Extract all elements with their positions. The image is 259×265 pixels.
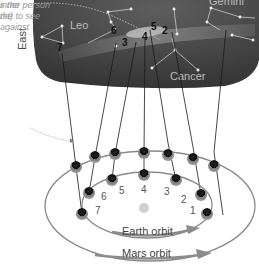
- mars-orbit-label: Mars orbit: [122, 247, 171, 259]
- gemini-label: Gemini: [209, 0, 244, 7]
- annotation-arrow-head: [70, 138, 74, 143]
- svg-text:2: 2: [162, 25, 168, 36]
- svg-text:4: 4: [141, 184, 147, 195]
- svg-text:7: 7: [95, 205, 101, 216]
- svg-text:5: 5: [119, 185, 125, 196]
- retrograde-diagram: Leo Gemini Cancer East 2 3 4 5 6 7: [0, 0, 259, 265]
- leo-label: Leo: [70, 19, 88, 31]
- svg-text:3: 3: [164, 186, 170, 197]
- annotation-dotted-arrow: [30, 128, 70, 141]
- svg-text:6: 6: [101, 191, 107, 202]
- svg-text:2: 2: [181, 194, 187, 205]
- svg-text:7: 7: [57, 42, 63, 53]
- earth-arrow-head: [186, 225, 200, 234]
- svg-text:3: 3: [122, 37, 128, 48]
- sun: [139, 203, 149, 213]
- cancer-label: Cancer: [170, 70, 206, 82]
- svg-text:1: 1: [190, 205, 196, 216]
- mars-arrow-head: [196, 249, 212, 259]
- svg-text:5: 5: [151, 21, 157, 32]
- svg-text:6: 6: [111, 25, 117, 36]
- side-annotation: inner person rst) to see against: [0, 0, 50, 33]
- earth-orbit-label: Earth orbit: [122, 225, 173, 237]
